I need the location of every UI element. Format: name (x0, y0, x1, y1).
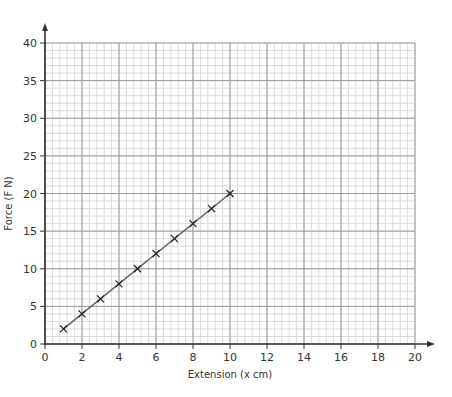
y-tick-label: 25 (23, 150, 37, 163)
y-axis-ticks: 0510152025303540 (23, 37, 45, 351)
y-tick-label: 35 (23, 75, 37, 88)
x-axis-ticks: 02468101214161820 (42, 344, 423, 364)
y-tick-label: 30 (23, 112, 37, 125)
x-tick-label: 10 (223, 351, 237, 364)
x-tick-label: 20 (408, 351, 422, 364)
x-axis-title: Extension (x cm) (188, 369, 273, 380)
y-tick-label: 40 (23, 37, 37, 50)
chart: 02468101214161820 0510152025303540 Exten… (0, 0, 452, 397)
x-tick-label: 0 (42, 351, 49, 364)
x-axis-arrow-icon (427, 341, 435, 347)
y-tick-label: 15 (23, 225, 37, 238)
x-tick-label: 6 (153, 351, 160, 364)
y-tick-label: 20 (23, 188, 37, 201)
x-tick-label: 8 (190, 351, 197, 364)
x-tick-label: 12 (260, 351, 274, 364)
y-tick-label: 0 (30, 338, 37, 351)
y-axis-title: Force (F N) (3, 176, 14, 231)
x-tick-label: 16 (334, 351, 348, 364)
y-tick-label: 5 (30, 300, 37, 313)
y-tick-label: 10 (23, 263, 37, 276)
y-axis-arrow-icon (42, 23, 48, 31)
x-tick-label: 14 (297, 351, 311, 364)
x-tick-label: 2 (79, 351, 86, 364)
x-tick-label: 18 (371, 351, 385, 364)
x-tick-label: 4 (116, 351, 123, 364)
